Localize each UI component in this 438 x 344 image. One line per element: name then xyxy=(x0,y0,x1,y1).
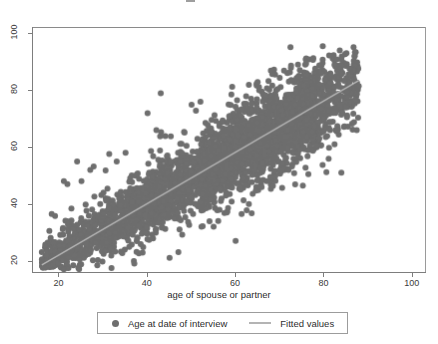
y-tick xyxy=(28,204,32,205)
legend-label-points: Age at date of interview xyxy=(128,318,227,329)
legend: Age at date of interview Fitted values xyxy=(97,312,348,334)
x-tick xyxy=(147,273,148,277)
y-tick xyxy=(28,90,32,91)
x-tick xyxy=(235,273,236,277)
y-tick xyxy=(28,33,32,34)
legend-entry-points: Age at date of interview xyxy=(112,313,227,333)
y-tick-label: 80 xyxy=(9,77,19,101)
y-tick xyxy=(28,261,32,262)
x-tick-label: 40 xyxy=(132,278,162,288)
circle-marker-icon xyxy=(112,320,119,327)
x-tick xyxy=(58,273,59,277)
cropped-title-remnant xyxy=(186,0,195,2)
plot-area xyxy=(32,27,425,272)
y-tick-label: 100 xyxy=(9,20,19,44)
x-axis-label: age of spouse or partner xyxy=(0,289,438,300)
legend-label-line: Fitted values xyxy=(280,318,334,329)
scatter-canvas xyxy=(33,28,425,272)
x-tick xyxy=(323,273,324,277)
x-tick-label: 80 xyxy=(308,278,338,288)
y-tick-label: 40 xyxy=(9,191,19,215)
x-tick-label: 20 xyxy=(43,278,73,288)
legend-entry-line: Fitted values xyxy=(249,313,334,333)
plot-right-rule xyxy=(425,27,426,273)
y-axis-line xyxy=(32,27,33,273)
line-marker-icon xyxy=(249,322,271,324)
y-tick-label: 60 xyxy=(9,134,19,158)
x-tick-label: 60 xyxy=(220,278,250,288)
scatter-plot-figure: 20406080100 20406080100 age of spouse or… xyxy=(0,0,438,344)
x-tick-label: 100 xyxy=(397,278,427,288)
x-tick xyxy=(412,273,413,277)
y-tick xyxy=(28,147,32,148)
x-axis-line xyxy=(32,272,426,273)
y-tick-label: 20 xyxy=(9,248,19,272)
